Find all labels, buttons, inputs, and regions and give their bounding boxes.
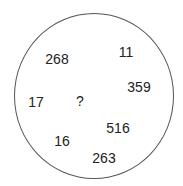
number-16: 16 — [54, 134, 70, 148]
number-516: 516 — [106, 121, 129, 135]
unknown-question-mark: ? — [76, 94, 84, 108]
number-268: 268 — [45, 52, 68, 66]
number-11: 11 — [119, 45, 134, 59]
number-359: 359 — [127, 80, 150, 94]
number-263: 263 — [92, 151, 115, 165]
number-17: 17 — [28, 95, 44, 109]
